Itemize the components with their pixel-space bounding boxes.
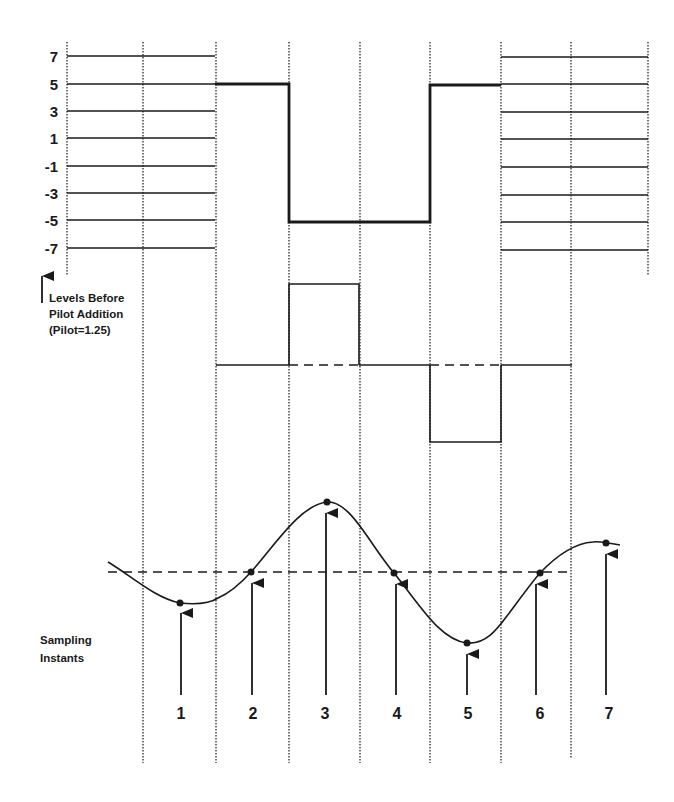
timing-grid bbox=[67, 42, 648, 763]
level-label: -7 bbox=[45, 240, 58, 257]
level-labels: 7 5 3 1 -1 -3 -5 -7 bbox=[45, 48, 58, 257]
instant-number-4: 4 bbox=[393, 705, 402, 722]
level-label: 5 bbox=[50, 76, 58, 93]
instant-number-3: 3 bbox=[321, 705, 330, 722]
sampling-label-line-1: Sampling bbox=[40, 634, 92, 646]
sampling-label-line-2: Instants bbox=[40, 652, 84, 664]
sample-dot-4 bbox=[391, 570, 398, 577]
level-lines-right bbox=[501, 57, 648, 250]
sampling-arrows bbox=[181, 513, 606, 695]
annotation-line-1: Levels Before bbox=[49, 292, 124, 304]
level-label: 7 bbox=[50, 48, 58, 65]
sample-dot-3 bbox=[324, 499, 331, 506]
instant-number-1: 1 bbox=[177, 705, 186, 722]
instant-number-5: 5 bbox=[464, 705, 473, 722]
instant-numbers: 1 2 3 4 5 6 7 bbox=[177, 705, 614, 722]
instant-number-6: 6 bbox=[536, 705, 545, 722]
symbol-waveform bbox=[215, 84, 501, 222]
sample-dot-6 bbox=[537, 570, 544, 577]
instant-number-7: 7 bbox=[605, 705, 614, 722]
level-label: -5 bbox=[45, 212, 58, 229]
annotation-line-3: (Pilot=1.25) bbox=[49, 324, 111, 336]
sample-dot-7 bbox=[603, 540, 610, 547]
sample-dot-2 bbox=[248, 569, 255, 576]
instant-number-2: 2 bbox=[249, 705, 258, 722]
pilot-addition-diagram: 7 5 3 1 -1 -3 -5 -7 Levels Before Pilot … bbox=[0, 0, 674, 802]
level-label: 3 bbox=[50, 103, 58, 120]
levels-annotation: Levels Before Pilot Addition (Pilot=1.25… bbox=[42, 276, 124, 336]
level-label: -3 bbox=[45, 185, 58, 202]
level-lines-left bbox=[67, 56, 215, 248]
level-label: -1 bbox=[45, 158, 58, 175]
sample-dot-5 bbox=[464, 640, 471, 647]
sample-dot-1 bbox=[177, 600, 184, 607]
annotation-line-2: Pilot Addition bbox=[49, 308, 123, 320]
pilot-waveform bbox=[216, 284, 572, 442]
level-label: 1 bbox=[50, 130, 58, 147]
